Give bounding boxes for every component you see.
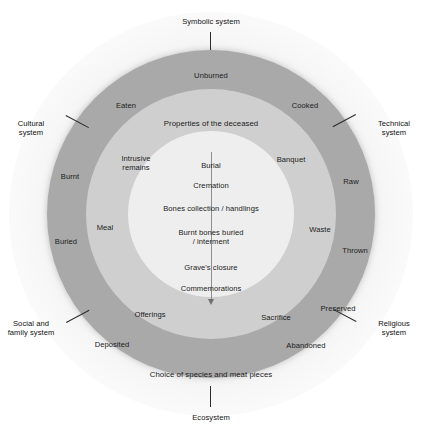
inner-step-commemorations: Commemorations xyxy=(181,284,242,293)
outer-ring-item-preserved: Preserved xyxy=(320,304,355,313)
outer-ring-item-raw: Raw xyxy=(343,177,358,186)
system-label-social-family: Social and family system xyxy=(8,319,55,338)
outer-ring-item-thrown: Thrown xyxy=(342,246,368,255)
inner-step-bones-collection: Bones collection / handlings xyxy=(163,204,259,213)
system-label-technical: Technical system xyxy=(378,119,410,138)
outer-ring-item-cooked: Cooked xyxy=(292,101,318,110)
system-label-ecosystem: Ecosystem xyxy=(192,413,230,422)
system-label-cultural: Cultural system xyxy=(18,119,45,138)
middle-ring-item-banquet: Banquet xyxy=(277,155,306,164)
inner-flow-arrow xyxy=(211,152,212,300)
inner-step-graves-closure: Grave's closure xyxy=(184,263,237,272)
inner-step-cremation: Cremation xyxy=(193,181,228,190)
system-label-religious: Religious system xyxy=(378,319,410,338)
outer-ring-item-eaten: Eaten xyxy=(116,101,136,110)
outer-ring-item-deposited: Deposited xyxy=(95,340,130,349)
middle-ring-item-waste: Waste xyxy=(309,225,331,234)
middle-ring-band-label: Properties of the deceased xyxy=(164,119,259,129)
outer-ring-item-unburned: Unburned xyxy=(194,71,228,80)
system-label-symbolic: Symbolic system xyxy=(182,17,240,26)
middle-ring-item-intrusive-remains: Intrusive remains xyxy=(121,154,150,173)
inner-step-burial: Burial xyxy=(201,161,221,170)
middle-ring-item-meal: Meal xyxy=(97,223,114,232)
outer-ring-item-burnt: Burnt xyxy=(61,172,79,181)
outer-ring-item-buried: Buried xyxy=(55,237,77,246)
middle-ring-item-offerings: Offerings xyxy=(134,310,165,319)
inner-step-burnt-bones-buried: Burnt bones buried / interment xyxy=(178,228,243,247)
leader-line-symbolic xyxy=(210,32,211,50)
outer-ring-item-abandoned: Abandoned xyxy=(286,341,325,350)
middle-ring-item-sacrifice: Sacrifice xyxy=(261,313,291,322)
concentric-systems-diagram: Symbolic system Technical system Religio… xyxy=(0,0,422,441)
leader-line-ecosystem xyxy=(210,386,211,407)
outer-ring-band-label: Choice of species and meat pieces xyxy=(150,370,273,380)
